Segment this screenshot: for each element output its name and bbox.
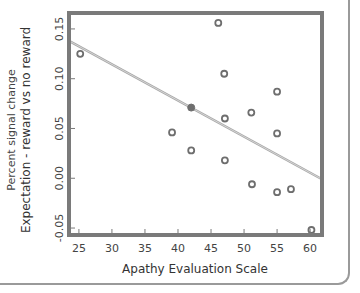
x-tick-label: 40: [171, 242, 185, 255]
y-axis-title: Expectation - reward vs no reward: [19, 27, 33, 233]
data-point-marker: [215, 20, 221, 26]
y-tick-label: 0.15: [53, 17, 66, 42]
y-tick-label: 0.10: [53, 66, 66, 91]
data-point-marker: [274, 189, 280, 195]
y-tick-label: 0.05: [53, 116, 66, 141]
data-point-marker: [308, 227, 314, 233]
data-point-marker: [222, 116, 228, 122]
x-axis-ticks: 2530354045505560: [72, 229, 317, 255]
data-point-marker: [248, 110, 254, 116]
data-point-marker: [77, 51, 83, 57]
data-point-marker: [169, 129, 175, 135]
data-point-marker: [274, 89, 280, 95]
data-point-marker: [221, 71, 227, 77]
x-tick-label: 30: [105, 242, 119, 255]
x-tick-label: 45: [204, 242, 218, 255]
data-point-marker: [222, 157, 228, 163]
x-tick-label: 50: [237, 242, 251, 255]
y-tick-label: -0.05: [53, 214, 66, 242]
y-axis-ticks: -0.050.000.050.100.15: [53, 17, 75, 243]
y-tick-label: 0.00: [53, 166, 66, 191]
scatter-chart: 2530354045505560 -0.050.000.050.100.15 A…: [0, 0, 360, 293]
data-points: [77, 20, 314, 233]
mean-point-marker: [188, 104, 195, 111]
plot-frame: [69, 13, 322, 235]
x-tick-label: 35: [138, 242, 152, 255]
data-point-marker: [249, 181, 255, 187]
x-tick-label: 60: [303, 242, 317, 255]
x-tick-label: 55: [270, 242, 284, 255]
regression-line: [69, 41, 322, 179]
x-axis-title: Apathy Evaluation Scale: [122, 262, 268, 276]
x-tick-label: 25: [72, 242, 86, 255]
data-point-marker: [288, 186, 294, 192]
data-point-marker: [274, 130, 280, 136]
data-point-marker: [188, 147, 194, 153]
y-axis-subtitle: Percent signal change: [5, 69, 18, 191]
